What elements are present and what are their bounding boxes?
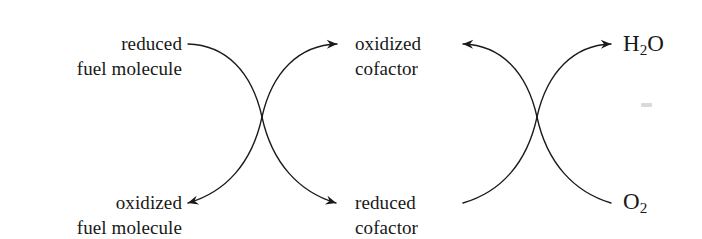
formula-element: H [623,31,640,56]
scan-artifact [641,103,652,107]
arrow-fuel-in [188,44,262,117]
arrow-water-out [537,44,611,117]
label-line-1: reduced [12,31,182,56]
label-oxygen-formula: O2 [623,189,647,215]
label-line-1: oxidized [355,31,485,56]
arrow-oxygen-in [537,117,611,203]
label-line-2: fuel molecule [12,215,182,239]
label-line-1: oxidized [12,190,182,215]
arrow-reduced-cofactor-out [262,117,336,203]
label-reduced-cofactor: reduced cofactor [355,190,485,239]
label-reduced-fuel-molecule: reduced fuel molecule [12,31,182,81]
arrow-oxidized-cofactor-out-left [262,44,337,117]
label-line-2: cofactor [355,215,485,239]
formula-subscript: 2 [640,199,648,216]
label-oxidized-fuel-molecule: oxidized fuel molecule [12,190,182,239]
arrow-oxidized-fuel-out [188,117,262,203]
label-water-formula: H2O [623,31,664,57]
label-line-2: cofactor [355,56,485,81]
label-oxidized-cofactor: oxidized cofactor [355,31,485,81]
redox-coupling-figure: reduced fuel molecule oxidized fuel mole… [0,0,702,239]
formula-tail: O [647,31,664,56]
label-line-1: reduced [355,190,485,215]
formula-element: O [623,189,640,214]
label-line-2: fuel molecule [12,56,182,81]
